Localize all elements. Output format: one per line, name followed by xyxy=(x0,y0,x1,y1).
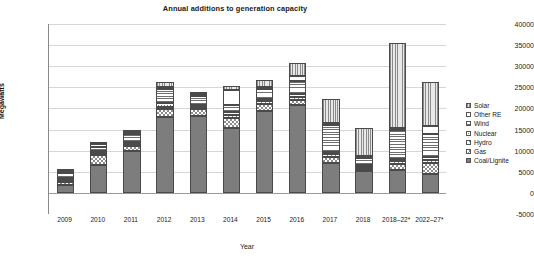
bar-column[interactable] xyxy=(422,24,439,214)
bar-segment-gas[interactable] xyxy=(90,155,107,165)
bar-column[interactable] xyxy=(256,24,273,214)
y-tick-label: -5000 xyxy=(490,211,534,218)
bar-segment-solar[interactable] xyxy=(322,99,339,123)
bar-stack xyxy=(289,63,306,193)
bar-stack xyxy=(223,86,240,193)
legend-label: Solar xyxy=(474,102,489,109)
bar-column[interactable] xyxy=(355,24,372,214)
x-tick-label: 2012 xyxy=(148,216,181,223)
bar-stack xyxy=(389,43,406,193)
bar-segment-solar[interactable] xyxy=(289,63,306,76)
bar-segment-wind[interactable] xyxy=(322,125,339,152)
legend-swatch-icon xyxy=(466,131,471,136)
bar-segment-coal-lignite[interactable] xyxy=(389,170,406,193)
plot-area xyxy=(48,24,446,214)
bar-column[interactable] xyxy=(389,24,406,214)
legend-item[interactable]: Nuclear xyxy=(466,129,509,138)
legend-label: Wind xyxy=(474,120,489,127)
bar-segment-coal-lignite[interactable] xyxy=(123,151,140,193)
bar-segment-other-re[interactable] xyxy=(223,90,240,105)
bar-segment-wind[interactable] xyxy=(422,134,439,157)
bar-segment-gas[interactable] xyxy=(422,163,439,174)
bar-segment-wind[interactable] xyxy=(389,130,406,159)
chart-legend: SolarOther REWindNuclearHydroGasCoal/Lig… xyxy=(466,101,509,165)
bar-segment-coal-lignite[interactable] xyxy=(57,185,74,193)
bar-segment-solar[interactable] xyxy=(422,82,439,126)
x-tick-label: 2018 xyxy=(347,216,380,223)
bar-segment-coal-lignite[interactable] xyxy=(289,105,306,193)
bar-segment-wind[interactable] xyxy=(256,89,273,99)
bar-segment-gas[interactable] xyxy=(190,109,207,116)
legend-item[interactable]: Solar xyxy=(466,101,509,110)
bar-segment-coal-lignite[interactable] xyxy=(190,116,207,193)
bar-column[interactable] xyxy=(289,24,306,214)
x-tick-label: 2015 xyxy=(247,216,280,223)
legend-swatch-icon xyxy=(466,112,471,117)
bar-segment-coal-lignite[interactable] xyxy=(156,117,173,193)
bar-stack xyxy=(190,92,207,193)
bar-column[interactable] xyxy=(57,24,74,214)
bar-segment-coal-lignite[interactable] xyxy=(223,128,240,193)
legend-swatch-icon xyxy=(466,140,471,145)
bar-segment-gas[interactable] xyxy=(156,109,173,117)
bar-stack xyxy=(256,80,273,193)
bar-segment-other-re[interactable] xyxy=(422,126,439,134)
y-tick-label: 30000 xyxy=(490,63,534,70)
bar-column[interactable] xyxy=(190,24,207,214)
bar-stack xyxy=(123,130,140,193)
bar-segment-coal-lignite[interactable] xyxy=(322,163,339,193)
x-axis-label: Year xyxy=(48,243,446,250)
bar-column[interactable] xyxy=(123,24,140,214)
x-tick-label: 2011 xyxy=(114,216,147,223)
legend-item[interactable]: Coal/Lignite xyxy=(466,156,509,165)
chart-title: Annual additions to generation capacity xyxy=(0,4,470,13)
bar-segment-wind[interactable] xyxy=(190,96,207,105)
legend-item[interactable]: Gas xyxy=(466,147,509,156)
bar-stack xyxy=(322,99,339,193)
y-tick-label: 5000 xyxy=(490,168,534,175)
bar-segment-gas[interactable] xyxy=(223,118,240,129)
bar-segment-coal-lignite[interactable] xyxy=(256,111,273,193)
legend-item[interactable]: Wind xyxy=(466,119,509,128)
x-tick-label: 2022–27* xyxy=(413,216,446,223)
bar-stack xyxy=(422,82,439,193)
bar-segment-solar[interactable] xyxy=(256,80,273,87)
bar-segment-wind[interactable] xyxy=(123,134,140,141)
bar-segment-coal-lignite[interactable] xyxy=(90,165,107,192)
bar-segment-wind[interactable] xyxy=(289,81,306,94)
bar-segment-solar[interactable] xyxy=(355,128,372,156)
bar-segment-wind[interactable] xyxy=(223,105,240,113)
legend-item[interactable]: Hydro xyxy=(466,138,509,147)
bar-column[interactable] xyxy=(90,24,107,214)
y-axis-label: Megawatts xyxy=(0,83,5,119)
y-tick-label: 35000 xyxy=(490,42,534,49)
legend-swatch-icon xyxy=(466,149,471,154)
bar-segment-wind[interactable] xyxy=(355,158,372,165)
legend-label: Nuclear xyxy=(474,130,497,137)
x-tick-label: 2013 xyxy=(181,216,214,223)
legend-swatch-icon xyxy=(466,103,471,108)
bar-column[interactable] xyxy=(156,24,173,214)
bar-column[interactable] xyxy=(223,24,240,214)
x-tick-label: 2016 xyxy=(280,216,313,223)
x-tick-label: 2018–22* xyxy=(380,216,413,223)
y-tick-label: 0 xyxy=(490,189,534,196)
bar-segment-solar[interactable] xyxy=(389,43,406,129)
legend-label: Gas xyxy=(474,148,486,155)
x-tick-label: 2014 xyxy=(214,216,247,223)
legend-item[interactable]: Other RE xyxy=(466,110,509,119)
bar-segment-coal-lignite[interactable] xyxy=(422,174,439,193)
bar-stack xyxy=(90,142,107,192)
x-tick-label: 2010 xyxy=(81,216,114,223)
y-tick-label: 25000 xyxy=(490,84,534,91)
bar-segment-wind[interactable] xyxy=(156,89,173,103)
legend-label: Other RE xyxy=(474,111,501,118)
bar-segment-coal-lignite[interactable] xyxy=(355,171,372,193)
y-tick-label: 40000 xyxy=(490,21,534,28)
bar-series-layer xyxy=(49,24,446,214)
legend-swatch-icon xyxy=(466,158,471,163)
legend-label: Coal/Lignite xyxy=(474,157,509,164)
bar-column[interactable] xyxy=(322,24,339,214)
bar-stack xyxy=(156,82,173,193)
bar-stack xyxy=(57,169,74,193)
